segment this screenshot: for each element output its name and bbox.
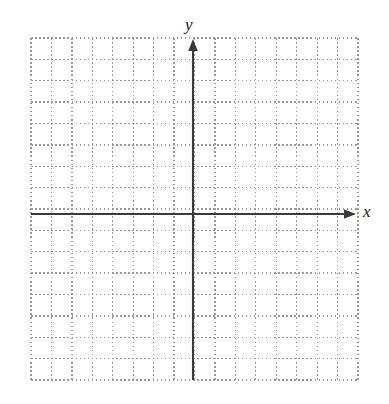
- x-axis-label: x: [363, 203, 371, 220]
- grid-lines-group: [31, 38, 358, 380]
- horizontal-grid-lines: [31, 38, 358, 380]
- coordinate-grid-figure: y x: [0, 0, 389, 404]
- y-axis-arrowhead: [188, 39, 198, 51]
- y-axis-label: y: [185, 16, 193, 33]
- grid-canvas: [0, 0, 389, 404]
- x-axis-arrowhead: [344, 209, 356, 219]
